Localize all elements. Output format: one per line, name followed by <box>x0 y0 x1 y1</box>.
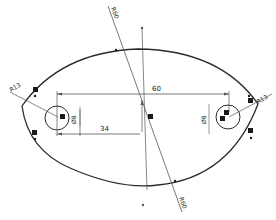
tangent-point <box>34 138 36 140</box>
center-line-slanted <box>142 28 147 190</box>
tangent-point <box>248 95 250 97</box>
tangent-point <box>34 95 36 97</box>
constraint-marker[interactable] <box>224 110 229 115</box>
right-hole-circle <box>216 105 240 129</box>
dim-offset-label: 34 <box>100 125 109 133</box>
tangent-point <box>174 180 176 182</box>
constraint-marker[interactable] <box>148 114 153 119</box>
constraint-marker[interactable] <box>32 130 37 135</box>
tangent-point <box>250 137 252 139</box>
tangent-point <box>115 49 117 51</box>
arrow-offset-left <box>57 133 62 136</box>
radius-top-label: R60 <box>110 6 121 20</box>
dia-left-label: Ø8 <box>70 115 77 124</box>
center-mark-top <box>141 27 143 29</box>
arrow-left <box>57 93 62 96</box>
constraint-marker[interactable] <box>248 128 253 133</box>
dim-width-label: 60 <box>152 85 161 93</box>
radius-leader-top <box>108 6 182 212</box>
radius-bottom-label: R60 <box>178 196 189 210</box>
arrow-right <box>224 93 229 96</box>
constraint-marker[interactable] <box>33 87 38 92</box>
constraint-marker[interactable] <box>220 116 225 121</box>
technical-drawing: 60 34 Ø8 Ø8 R60 R60 R13 R13 <box>0 0 276 220</box>
dia-right-label: Ø8 <box>200 115 207 124</box>
radius-right-label: R13 <box>255 93 269 105</box>
outline-top-arc <box>22 49 258 106</box>
constraint-marker[interactable] <box>248 98 253 103</box>
constraint-marker[interactable] <box>60 114 65 119</box>
radius-left-label: R13 <box>8 81 22 93</box>
center-mark-bottom <box>142 204 144 206</box>
